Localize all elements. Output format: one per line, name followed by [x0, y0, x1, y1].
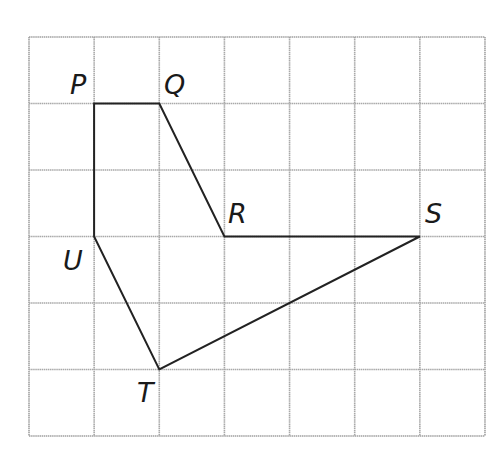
- label-t: T: [137, 377, 156, 408]
- label-q: Q: [164, 69, 185, 100]
- grid-diagram: P Q R S T U: [0, 0, 502, 468]
- label-s: S: [425, 198, 442, 229]
- label-p: P: [70, 69, 87, 100]
- label-r: R: [228, 198, 247, 229]
- vertex-labels: P Q R S T U: [63, 69, 442, 408]
- label-u: U: [63, 245, 83, 276]
